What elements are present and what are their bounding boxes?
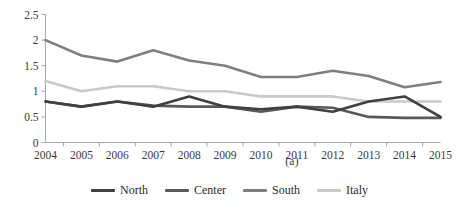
series-line-south	[46, 40, 441, 87]
y-tick-label: 0.5	[24, 111, 39, 123]
y-tick-label: 2.5	[24, 9, 39, 21]
series-lines	[46, 40, 441, 118]
x-axis	[46, 143, 441, 147]
chart-legend: NorthCenterSouthItaly	[0, 183, 459, 198]
legend-item-italy[interactable]: Italy	[317, 183, 368, 198]
legend-swatch-north	[91, 189, 115, 193]
legend-item-south[interactable]: South	[243, 183, 300, 198]
subfigure-caption-text: (a)	[285, 155, 298, 167]
legend-label-south: South	[272, 183, 300, 198]
legend-label-center: Center	[194, 183, 226, 198]
legend-swatch-center	[165, 189, 189, 193]
line-chart: 00.511.522.5 200420052006200720082009201…	[0, 0, 459, 175]
plot-area: 00.511.522.5 200420052006200720082009201…	[0, 0, 459, 175]
legend-label-italy: Italy	[346, 183, 368, 198]
legend-item-center[interactable]: Center	[165, 183, 226, 198]
y-tick-label: 1	[33, 85, 39, 97]
legend-swatch-italy	[317, 189, 341, 193]
y-tick-label: 1.5	[24, 60, 39, 72]
legend-swatch-south	[243, 189, 267, 193]
legend-label-north: North	[120, 183, 148, 198]
subfigure-caption: (a)	[0, 155, 459, 167]
legend-item-north[interactable]: North	[91, 183, 148, 198]
series-line-north	[46, 96, 441, 116]
y-tick-label: 0	[33, 137, 39, 149]
y-tick-label: 2	[33, 34, 39, 46]
figure: 00.511.522.5 200420052006200720082009201…	[0, 0, 459, 209]
y-axis: 00.511.522.5	[24, 9, 45, 149]
